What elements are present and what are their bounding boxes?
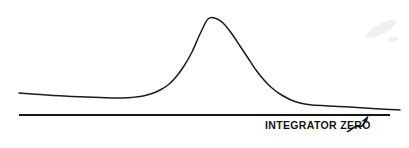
chromatogram-figure: INTEGRATOR ZERO	[0, 0, 409, 148]
smudge-shape-secondary	[388, 36, 398, 42]
detector-signal-trace	[19, 17, 400, 110]
integrator-zero-label: INTEGRATOR ZERO	[265, 119, 371, 132]
scan-smudge-artifact	[364, 17, 399, 42]
